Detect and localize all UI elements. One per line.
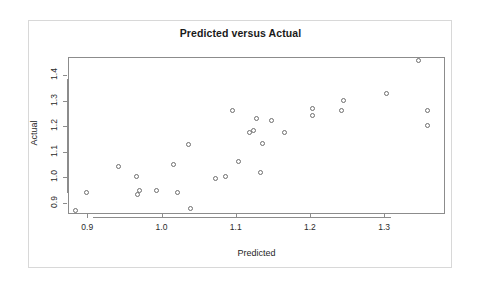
y-tick-label: 1.4: [49, 67, 59, 81]
scatter-point: [260, 141, 265, 146]
scatter-point: [341, 98, 346, 103]
y-tick-mark: [63, 75, 67, 76]
x-tick-label: 1.2: [290, 222, 330, 232]
scatter-point: [223, 174, 228, 179]
scatter-point: [186, 142, 191, 147]
y-tick-label: 1.1: [49, 144, 59, 158]
y-tick-mark: [63, 177, 67, 178]
chart-title: Predicted versus Actual: [0, 27, 481, 39]
x-tick-label: 1.1: [216, 222, 256, 232]
scatter-point: [137, 188, 142, 193]
y-tick-mark: [63, 203, 67, 204]
x-tick-mark: [384, 214, 385, 218]
scatter-point: [425, 108, 430, 113]
x-tick-label: 1.3: [364, 222, 404, 232]
y-tick-label: 1.0: [49, 169, 59, 183]
y-tick-label: 1.2: [49, 118, 59, 132]
y-tick-label: 0.9: [49, 195, 59, 209]
scatter-point: [154, 188, 159, 193]
scatter-point: [425, 123, 430, 128]
scatter-point: [269, 118, 274, 123]
x-axis-title: Predicted: [68, 248, 445, 258]
x-tick-mark: [87, 214, 88, 218]
y-tick-mark: [63, 101, 67, 102]
scatter-point: [310, 113, 315, 118]
screenshot-root: Predicted versus Actual 0.91.01.11.21.3 …: [0, 0, 481, 292]
plot-panel: [68, 57, 445, 214]
y-tick-label: 1.3: [49, 93, 59, 107]
y-tick-mark: [63, 152, 67, 153]
scatter-point: [416, 58, 421, 63]
x-tick-mark: [310, 214, 311, 218]
x-tick-mark: [162, 214, 163, 218]
y-tick-mark: [63, 126, 67, 127]
x-tick-mark: [236, 214, 237, 218]
scatter-point: [339, 108, 344, 113]
scatter-point: [236, 159, 241, 164]
x-tick-label: 0.9: [67, 222, 107, 232]
x-axis-line: [93, 217, 391, 218]
scatter-point: [171, 162, 176, 167]
scatter-point: [254, 116, 259, 121]
y-axis-title: Actual: [29, 111, 39, 155]
x-tick-label: 1.0: [142, 222, 182, 232]
scatter-point: [384, 91, 389, 96]
y-axis-line: [67, 79, 68, 193]
scatter-point: [230, 108, 235, 113]
